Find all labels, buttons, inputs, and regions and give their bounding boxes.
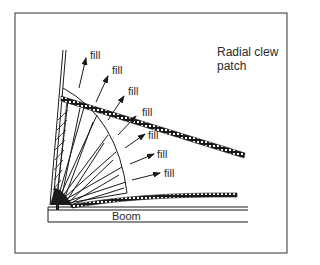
fill-label-6: fill — [157, 149, 167, 160]
title-line-1: Radial clew — [217, 45, 287, 59]
foot-tape — [70, 193, 237, 208]
fill-arrow-5 — [125, 134, 145, 148]
title-line-2: patch — [217, 59, 287, 73]
fill-label-1: fill — [90, 50, 100, 61]
boom — [48, 207, 248, 222]
fill-label-2: fill — [112, 65, 122, 76]
fill-label-5: fill — [148, 130, 158, 141]
fill-arrow-6 — [130, 154, 154, 164]
diagram-title: Radial clew patch — [217, 45, 287, 73]
fill-label-4: fill — [142, 107, 152, 118]
fill-label-3: fill — [128, 86, 138, 97]
fill-label-7: fill — [164, 168, 174, 179]
fill-arrow-1 — [79, 58, 86, 88]
fill-arrow-7 — [132, 173, 160, 180]
fill-arrow-2 — [96, 76, 108, 102]
mast — [50, 50, 66, 205]
diagonal-tape — [61, 96, 245, 158]
boom-label: Boom — [112, 211, 141, 222]
